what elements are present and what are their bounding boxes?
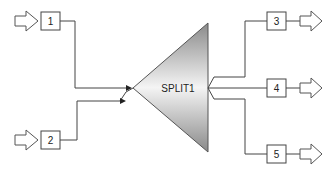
stream-line-2[interactable] [60, 88, 133, 140]
svg-text:SPLIT1: SPLIT1 [161, 83, 195, 94]
stream-box-3[interactable]: 3 [267, 12, 286, 30]
product-arrow-5-icon [300, 144, 322, 164]
feed-arrow-2-icon [15, 130, 38, 150]
svg-text:1: 1 [48, 16, 54, 27]
splitter-block[interactable]: SPLIT1 [133, 23, 208, 152]
stream-line-1[interactable] [60, 21, 126, 88]
product-arrow-4-icon [300, 78, 322, 98]
svg-text:3: 3 [274, 16, 280, 27]
svg-text:5: 5 [274, 149, 280, 160]
product-arrow-3-icon [300, 11, 322, 31]
stream-2-arrowhead-icon [120, 98, 126, 104]
stream-box-5[interactable]: 5 [267, 145, 286, 163]
stream-box-4[interactable]: 4 [267, 79, 286, 97]
flowsheet-diagram: 1 2 SPLIT1 3 4 5 [0, 0, 335, 171]
feed-arrow-1-icon [15, 11, 38, 31]
svg-text:2: 2 [48, 135, 54, 146]
svg-text:4: 4 [274, 83, 280, 94]
stream-box-1[interactable]: 1 [41, 12, 60, 30]
stream-box-2[interactable]: 2 [41, 131, 60, 149]
stream-line-3[interactable] [208, 21, 267, 88]
stream-line-5[interactable] [208, 88, 267, 154]
